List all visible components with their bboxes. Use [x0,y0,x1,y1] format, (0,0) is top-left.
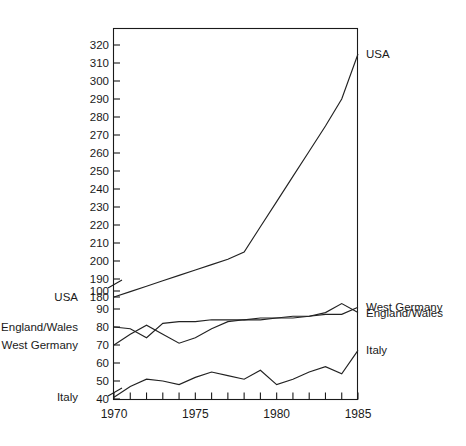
left-series-labels: USAEngland/WalesWest GermanyItaly [1,291,78,403]
right-label-italy: Italy [366,344,387,356]
left-label-england-wales: England/Wales [1,321,78,333]
y-tick-label-100: 100 [90,285,109,297]
y-tick-label-50: 50 [96,375,109,387]
left-label-italy: Italy [57,391,78,403]
left-label-usa: USA [54,291,78,303]
y-tick-label-60: 60 [96,357,109,369]
broken-axis-line-chart: 1801902002102202302402502602702802903003… [0,0,466,446]
y-tick-label-250: 250 [90,165,109,177]
y-tick-label-320: 320 [90,39,109,51]
plot-frame [114,29,358,400]
x-axis-tick-labels: 1970197519801985 [101,407,372,421]
y-tick-label-270: 270 [90,129,109,141]
y-axis-tick-labels: 1801902002102202302402502602702802903003… [90,39,109,405]
y-tick-label-80: 80 [96,321,109,333]
y-tick-label-70: 70 [96,339,109,351]
y-tick-label-200: 200 [90,255,109,267]
y-axis-ticks [114,45,120,399]
series-lines-group [114,54,358,397]
left-label-west-germany: West Germany [2,339,79,351]
y-tick-label-220: 220 [90,219,109,231]
y-tick-label-290: 290 [90,93,109,105]
y-tick-label-90: 90 [96,303,109,315]
series-line-usa [114,54,358,297]
x-tick-label-1975: 1975 [182,407,209,421]
y-tick-label-210: 210 [90,237,109,249]
y-tick-label-260: 260 [90,147,109,159]
axis-break-upper [108,280,122,288]
y-tick-label-190: 190 [90,273,109,285]
x-axis-ticks [114,393,358,400]
y-tick-label-300: 300 [90,75,109,87]
x-tick-label-1985: 1985 [345,407,372,421]
y-tick-label-310: 310 [90,57,109,69]
y-tick-label-280: 280 [90,111,109,123]
series-line-italy [114,350,358,397]
series-line-west-germany [114,307,358,345]
x-tick-label-1980: 1980 [263,407,290,421]
x-tick-label-1970: 1970 [101,407,128,421]
chart-figure: 1801902002102202302402502602702802903003… [0,0,466,446]
y-tick-label-40: 40 [96,393,109,405]
right-series-labels: USAEngland/WalesWest GermanyItaly [366,48,443,356]
right-label-usa: USA [366,48,390,60]
y-tick-label-240: 240 [90,183,109,195]
y-tick-label-230: 230 [90,201,109,213]
axis-break-lower [108,388,122,396]
right-label-west-germany: West Germany [366,301,443,313]
